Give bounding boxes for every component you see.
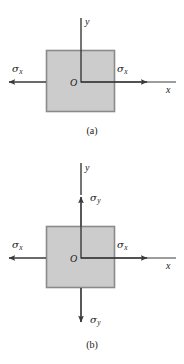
sigma-subscript: x [124, 243, 127, 252]
panel-b-graphics [0, 150, 184, 364]
diagram-panel-b: y x O σx σx σy σy (b) [0, 150, 184, 364]
x-axis-label: x [166, 85, 170, 95]
diagram-panel-a: y x O σx σx (a) [0, 0, 184, 150]
sigma-y-top-label: σy [90, 193, 100, 204]
origin-label: O [70, 78, 77, 88]
sigma-y-bottom-label: σy [90, 315, 100, 326]
sigma-glyph: σ [117, 63, 124, 74]
stress-element-figure: y x O σx σx (a) [0, 0, 184, 364]
y-axis-label: y [85, 17, 89, 27]
sigma-x-left-label: σx [12, 64, 22, 75]
sigma-subscript: x [124, 67, 127, 76]
sigma-x-right-label: σx [117, 240, 127, 251]
sigma-subscript: y [97, 196, 100, 205]
sigma-glyph: σ [117, 239, 124, 250]
origin-label: O [70, 254, 77, 264]
panel-a-caption: (a) [0, 126, 184, 136]
sigma-x-right-label: σx [117, 64, 127, 75]
sigma-subscript: x [19, 243, 22, 252]
sigma-glyph: σ [90, 192, 97, 203]
panel-b-caption: (b) [0, 340, 184, 350]
sigma-subscript: x [19, 67, 22, 76]
sigma-glyph: σ [12, 239, 19, 250]
sigma-glyph: σ [90, 314, 97, 325]
sigma-subscript: y [97, 318, 100, 327]
x-axis-label: x [166, 261, 170, 271]
sigma-x-left-label: σx [12, 240, 22, 251]
y-axis-label: y [85, 163, 89, 173]
sigma-glyph: σ [12, 63, 19, 74]
